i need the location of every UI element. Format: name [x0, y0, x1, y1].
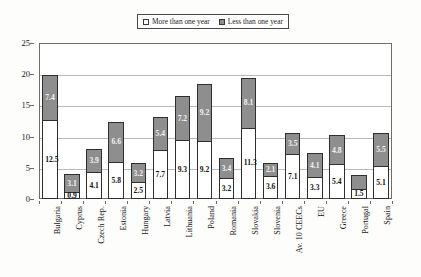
- bar-group[interactable]: 7.412.5: [42, 75, 58, 199]
- bar-segment-less-than-one-year[interactable]: 4.8: [329, 135, 345, 165]
- x-tick-mark: [326, 201, 327, 204]
- bar-value-label: 5.1: [376, 179, 386, 187]
- bar-value-label: 7.7: [156, 171, 166, 179]
- bar-value-label: 7.2: [178, 115, 188, 123]
- y-tick-label: 10: [21, 133, 30, 142]
- legend-entry-more-than-one-year: More than one year: [143, 18, 210, 25]
- bar-segment-less-than-one-year[interactable]: [351, 175, 367, 190]
- x-tick-mark: [105, 201, 106, 204]
- bar-segment-more-than-one-year[interactable]: 1.5: [351, 190, 367, 199]
- bar-segment-less-than-one-year[interactable]: 7.4: [42, 75, 58, 121]
- bar-segment-more-than-one-year[interactable]: 3.6: [263, 177, 279, 199]
- bar-value-label: 4.1: [89, 182, 99, 190]
- bar-segment-more-than-one-year[interactable]: 5.8: [108, 163, 124, 199]
- bar-value-label: 5.4: [332, 178, 342, 186]
- bar-segment-less-than-one-year[interactable]: 5.5: [373, 133, 389, 167]
- bar-segment-less-than-one-year[interactable]: 3.5: [285, 133, 301, 155]
- bar-value-label: 2.5: [134, 187, 144, 195]
- y-tick-label: 15: [21, 101, 30, 110]
- y-tick-mark: [30, 74, 34, 75]
- bar-group[interactable]: 3.10.9: [64, 174, 80, 199]
- bar-group[interactable]: 9.29.2: [197, 84, 213, 199]
- legend-label-less-than-one-year: Less than one year: [228, 18, 283, 25]
- bar-group[interactable]: 6.65.8: [108, 122, 124, 199]
- bar-value-label: 8.1: [244, 99, 254, 107]
- bar-segment-less-than-one-year[interactable]: 7.2: [175, 96, 191, 141]
- x-tick-mark: [39, 201, 40, 204]
- x-tick-mark: [193, 201, 194, 204]
- x-tick-mark: [348, 201, 349, 204]
- white-square-icon: [143, 19, 149, 25]
- bar-group[interactable]: 5.47.7: [153, 117, 169, 199]
- bar-value-label: 3.1: [67, 180, 77, 188]
- bar-segment-more-than-one-year[interactable]: 9.3: [175, 141, 191, 199]
- bar-value-label: 7.4: [45, 94, 55, 102]
- bar-value-label: 12.5: [45, 156, 58, 164]
- bar-value-label: 6.6: [111, 138, 121, 146]
- bar-segment-more-than-one-year[interactable]: 5.1: [373, 167, 389, 199]
- x-tick-label: Portugal: [362, 206, 370, 234]
- bar-group[interactable]: 3.94.1: [86, 149, 102, 199]
- x-tick-mark: [304, 201, 305, 204]
- y-tick-label: 25: [21, 39, 30, 48]
- gray-square-icon: [219, 19, 225, 25]
- bar-value-label: 9.2: [200, 109, 210, 117]
- x-tick-label: Estonia: [120, 206, 128, 231]
- bar-value-label: 3.9: [89, 157, 99, 165]
- bar-group[interactable]: 7.29.3: [175, 96, 191, 199]
- bar-group[interactable]: 3.22.5: [131, 163, 147, 199]
- bar-group[interactable]: 1.5: [351, 175, 367, 199]
- x-tick-label: Latvia: [164, 206, 172, 227]
- x-tick-label: Av. 10 CEECs: [296, 206, 304, 253]
- y-axis: 0510152025: [10, 38, 34, 204]
- bar-group[interactable]: 2.13.6: [263, 163, 279, 199]
- bar-value-label: 5.4: [156, 130, 166, 138]
- y-tick-mark: [30, 137, 34, 138]
- bar-value-label: 4.1: [310, 162, 320, 170]
- bar-segment-more-than-one-year[interactable]: 12.5: [42, 121, 58, 199]
- x-tick-label: EU: [318, 206, 326, 217]
- bar-group[interactable]: 8.111.3: [241, 78, 257, 199]
- bar-segment-less-than-one-year[interactable]: 8.1: [241, 78, 257, 129]
- y-tick-mark: [30, 43, 34, 44]
- bar-segment-more-than-one-year[interactable]: 3.2: [219, 179, 235, 199]
- y-tick-label: 20: [21, 70, 30, 79]
- x-tick-mark: [392, 201, 393, 204]
- x-tick-label: Slovenia: [274, 206, 282, 235]
- bar-segment-more-than-one-year[interactable]: 2.5: [131, 183, 147, 199]
- bar-segment-less-than-one-year[interactable]: 3.9: [86, 149, 102, 173]
- bar-group[interactable]: 4.13.3: [307, 153, 323, 199]
- bar-segment-more-than-one-year[interactable]: 9.2: [197, 142, 213, 199]
- bar-group[interactable]: 5.55.1: [373, 133, 389, 199]
- x-axis: BulgariaCyprusCzech Rep.EstoniaHungaryLa…: [39, 201, 392, 277]
- bar-segment-less-than-one-year[interactable]: 3.4: [219, 158, 235, 179]
- bar-segment-less-than-one-year[interactable]: 4.1: [307, 153, 323, 179]
- y-tick-mark: [30, 168, 34, 169]
- bar-value-label: 9.2: [200, 166, 210, 174]
- bar-segment-less-than-one-year[interactable]: 5.4: [153, 117, 169, 151]
- bar-value-label: 1.5: [354, 190, 364, 198]
- bar-value-label: 0.9: [67, 192, 77, 200]
- bar-segment-more-than-one-year[interactable]: 3.3: [307, 178, 323, 199]
- x-tick-label: Poland: [208, 206, 216, 229]
- bar-value-label: 5.8: [111, 177, 121, 185]
- bar-group[interactable]: 3.57.1: [285, 133, 301, 199]
- bar-segment-less-than-one-year[interactable]: 6.6: [108, 122, 124, 163]
- bar-segment-more-than-one-year[interactable]: 5.4: [329, 165, 345, 199]
- bar-value-label: 2.1: [266, 166, 276, 174]
- bar-segment-more-than-one-year[interactable]: 11.3: [241, 129, 257, 200]
- bar-value-label: 3.2: [222, 185, 232, 193]
- bar-segment-more-than-one-year[interactable]: 7.7: [153, 151, 169, 199]
- bar-segment-more-than-one-year[interactable]: 0.9: [64, 193, 80, 199]
- bar-segment-less-than-one-year[interactable]: 3.2: [131, 163, 147, 183]
- bar-group[interactable]: 3.43.2: [219, 158, 235, 199]
- bar-value-label: 3.6: [266, 183, 276, 191]
- bar-group[interactable]: 4.85.4: [329, 135, 345, 199]
- bar-segment-less-than-one-year[interactable]: 2.1: [263, 163, 279, 176]
- x-tick-label: Bulgaria: [54, 206, 62, 234]
- x-tick-mark: [171, 201, 172, 204]
- bars-layer: 7.412.53.10.93.94.16.65.83.22.55.47.77.2…: [39, 43, 392, 199]
- bar-segment-more-than-one-year[interactable]: 4.1: [86, 173, 102, 199]
- bar-segment-less-than-one-year[interactable]: 9.2: [197, 84, 213, 141]
- bar-segment-more-than-one-year[interactable]: 7.1: [285, 155, 301, 199]
